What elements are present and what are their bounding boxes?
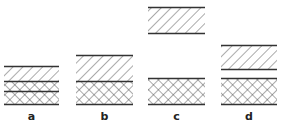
panel-label-b: b [101, 111, 109, 122]
cross-hatch-layer [148, 78, 205, 104]
diagonal-hatch-layer [76, 55, 133, 81]
panel-a [4, 66, 59, 105]
panel-label-a: a [28, 111, 35, 122]
panel-d [221, 45, 277, 105]
cross-hatch-layer [4, 81, 59, 91]
cross-hatch-layer [221, 78, 277, 104]
panel-label-c: c [173, 111, 180, 122]
panel-c [148, 7, 205, 105]
panel-b [76, 55, 133, 105]
panel-label-d: d [245, 111, 253, 122]
layer-diagram [0, 0, 283, 130]
cross-hatch-layer [76, 81, 133, 104]
cross-hatch-layer [4, 91, 59, 104]
diagonal-hatch-layer [4, 66, 59, 81]
diagonal-hatch-layer [148, 7, 205, 33]
diagonal-hatch-layer [221, 45, 277, 69]
